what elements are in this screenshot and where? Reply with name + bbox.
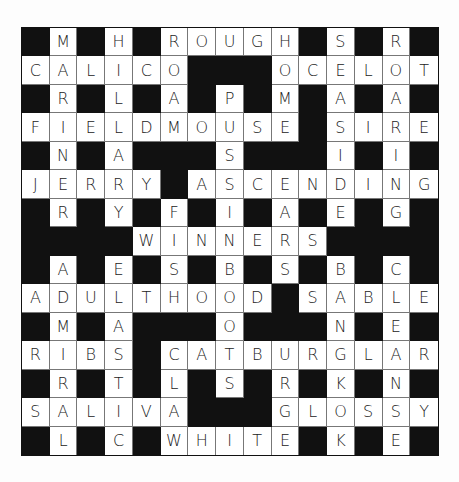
letter-cell[interactable]: A	[105, 142, 133, 170]
letter-cell[interactable]: R	[410, 341, 438, 369]
letter-cell[interactable]: T	[410, 56, 438, 84]
letter-cell[interactable]: N	[299, 170, 327, 198]
letter-cell[interactable]: P	[216, 85, 244, 113]
letter-cell[interactable]: R	[383, 113, 411, 141]
letter-cell[interactable]: C	[105, 427, 133, 455]
letter-cell[interactable]: B	[77, 341, 105, 369]
letter-cell[interactable]: Y	[105, 199, 133, 227]
letter-cell[interactable]: R	[77, 170, 105, 198]
letter-cell[interactable]: A	[327, 284, 355, 312]
letter-cell[interactable]: I	[161, 227, 189, 255]
letter-cell[interactable]: S	[383, 398, 411, 426]
letter-cell[interactable]: L	[105, 113, 133, 141]
letter-cell[interactable]: U	[272, 341, 300, 369]
letter-cell[interactable]: G	[244, 28, 272, 56]
letter-cell[interactable]: A	[50, 56, 78, 84]
letter-cell[interactable]: G	[383, 199, 411, 227]
letter-cell[interactable]: K	[327, 427, 355, 455]
letter-cell[interactable]: M	[272, 85, 300, 113]
letter-cell[interactable]: E	[77, 113, 105, 141]
letter-cell[interactable]: R	[383, 28, 411, 56]
letter-cell[interactable]: W	[161, 427, 189, 455]
letter-cell[interactable]: A	[22, 284, 50, 312]
letter-cell[interactable]: R	[299, 341, 327, 369]
letter-cell[interactable]: I	[105, 398, 133, 426]
letter-cell[interactable]: S	[22, 398, 50, 426]
letter-cell[interactable]: G	[410, 170, 438, 198]
letter-cell[interactable]: E	[50, 170, 78, 198]
letter-cell[interactable]: C	[161, 341, 189, 369]
letter-cell[interactable]: L	[355, 56, 383, 84]
letter-cell[interactable]: O	[272, 56, 300, 84]
letter-cell[interactable]: S	[161, 256, 189, 284]
letter-cell[interactable]: I	[383, 142, 411, 170]
letter-cell[interactable]: I	[216, 427, 244, 455]
letter-cell[interactable]: A	[327, 85, 355, 113]
letter-cell[interactable]: L	[77, 398, 105, 426]
letter-cell[interactable]: O	[188, 284, 216, 312]
letter-cell[interactable]: C	[133, 56, 161, 84]
letter-cell[interactable]: R	[272, 227, 300, 255]
letter-cell[interactable]: H	[161, 284, 189, 312]
letter-cell[interactable]: C	[383, 256, 411, 284]
letter-cell[interactable]: S	[355, 398, 383, 426]
letter-cell[interactable]: N	[216, 227, 244, 255]
letter-cell[interactable]: T	[105, 370, 133, 398]
letter-cell[interactable]: U	[77, 284, 105, 312]
letter-cell[interactable]: S	[327, 28, 355, 56]
letter-cell[interactable]: L	[77, 56, 105, 84]
letter-cell[interactable]: I	[216, 199, 244, 227]
letter-cell[interactable]: T	[216, 341, 244, 369]
letter-cell[interactable]: R	[105, 170, 133, 198]
letter-cell[interactable]: S	[216, 370, 244, 398]
letter-cell[interactable]: N	[383, 170, 411, 198]
letter-cell[interactable]: E	[383, 427, 411, 455]
letter-cell[interactable]: R	[50, 199, 78, 227]
letter-cell[interactable]: H	[272, 28, 300, 56]
letter-cell[interactable]: L	[105, 85, 133, 113]
letter-cell[interactable]: I	[355, 113, 383, 141]
letter-cell[interactable]: B	[355, 284, 383, 312]
letter-cell[interactable]: H	[105, 28, 133, 56]
letter-cell[interactable]: E	[383, 313, 411, 341]
letter-cell[interactable]: I	[327, 142, 355, 170]
letter-cell[interactable]: A	[188, 341, 216, 369]
letter-cell[interactable]: O	[216, 284, 244, 312]
letter-cell[interactable]: W	[133, 227, 161, 255]
letter-cell[interactable]: O	[188, 113, 216, 141]
letter-cell[interactable]: S	[244, 113, 272, 141]
letter-cell[interactable]: E	[272, 427, 300, 455]
letter-cell[interactable]: U	[216, 113, 244, 141]
letter-cell[interactable]: T	[244, 427, 272, 455]
letter-cell[interactable]: E	[244, 227, 272, 255]
letter-cell[interactable]: O	[383, 56, 411, 84]
letter-cell[interactable]: C	[22, 56, 50, 84]
letter-cell[interactable]: E	[105, 256, 133, 284]
letter-cell[interactable]: C	[244, 170, 272, 198]
letter-cell[interactable]: G	[272, 398, 300, 426]
letter-cell[interactable]: E	[410, 113, 438, 141]
letter-cell[interactable]: T	[133, 284, 161, 312]
letter-cell[interactable]: A	[161, 85, 189, 113]
letter-cell[interactable]: O	[188, 28, 216, 56]
letter-cell[interactable]: S	[216, 170, 244, 198]
letter-cell[interactable]: L	[50, 427, 78, 455]
letter-cell[interactable]: F	[161, 199, 189, 227]
letter-cell[interactable]: L	[355, 341, 383, 369]
letter-cell[interactable]: S	[299, 227, 327, 255]
letter-cell[interactable]: H	[188, 427, 216, 455]
letter-cell[interactable]: A	[50, 256, 78, 284]
letter-cell[interactable]: J	[22, 170, 50, 198]
letter-cell[interactable]: R	[272, 370, 300, 398]
letter-cell[interactable]: N	[383, 370, 411, 398]
letter-cell[interactable]: D	[133, 113, 161, 141]
letter-cell[interactable]: S	[216, 142, 244, 170]
letter-cell[interactable]: B	[244, 341, 272, 369]
letter-cell[interactable]: M	[50, 313, 78, 341]
letter-cell[interactable]: L	[299, 398, 327, 426]
letter-cell[interactable]: E	[410, 284, 438, 312]
letter-cell[interactable]: O	[216, 313, 244, 341]
letter-cell[interactable]: A	[383, 85, 411, 113]
letter-cell[interactable]: C	[299, 56, 327, 84]
letter-cell[interactable]: E	[327, 56, 355, 84]
